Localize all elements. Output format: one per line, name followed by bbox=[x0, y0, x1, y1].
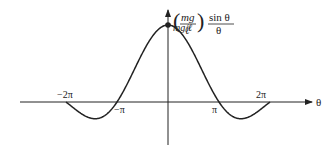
svg-text:): ) bbox=[197, 8, 204, 33]
tick-label-neg-pi: −π bbox=[114, 104, 125, 115]
tick-label-2pi: 2π bbox=[256, 89, 266, 100]
svg-text:sin θ: sin θ bbox=[209, 11, 230, 23]
x-axis-label: θ bbox=[316, 96, 321, 108]
tick-label-pi: π bbox=[212, 104, 217, 115]
peak-label: mg/ℓ bbox=[173, 22, 192, 33]
peak-dot bbox=[165, 22, 171, 28]
svg-text:θ: θ bbox=[216, 24, 221, 36]
sinc-diagram: ( mg ℓ ) sin θ θ mg/ℓ θ −2π −π π 2π bbox=[0, 0, 334, 151]
tick-label-neg-2pi: −2π bbox=[57, 89, 73, 100]
